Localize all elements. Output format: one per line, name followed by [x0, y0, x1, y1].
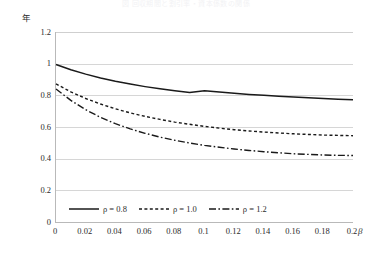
- x-axis-tick-labels: β 00.020.040.060.080.10.120.140.160.180.…: [0, 226, 372, 238]
- figure-container: 図 回収期間と割引率・資本係数の関係 年 00.20.40.60.811.2 ρ…: [0, 0, 372, 256]
- legend-swatch-solid: [69, 205, 99, 213]
- figure-title: 図 回収期間と割引率・資本係数の関係: [0, 0, 372, 9]
- series-line-2: [56, 84, 353, 136]
- y-tick-label: 0.6: [17, 123, 51, 132]
- y-tick-label: 0.8: [17, 91, 51, 100]
- y-axis-tick-labels: 00.20.40.60.811.2: [14, 0, 51, 256]
- plot-area: [55, 32, 353, 223]
- series-curves-layer: [56, 32, 353, 222]
- y-tick-label: 1.2: [17, 28, 51, 37]
- legend-item-1[interactable]: ρ = 0.8: [69, 205, 127, 214]
- y-tick-label: 0.2: [17, 186, 51, 195]
- legend-label: ρ = 1.0: [173, 205, 197, 214]
- legend-swatch-dash-dot: [209, 205, 239, 213]
- legend-item-2[interactable]: ρ = 1.0: [139, 205, 197, 214]
- legend-label: ρ = 1.2: [243, 205, 267, 214]
- legend-item-3[interactable]: ρ = 1.2: [209, 205, 267, 214]
- legend-label: ρ = 0.8: [103, 205, 127, 214]
- series-line-1: [56, 64, 353, 99]
- legend-swatch-dotted: [139, 205, 169, 213]
- y-tick-label: 0.4: [17, 154, 51, 163]
- x-tick-label: 0.2: [332, 226, 372, 237]
- chart-legend: ρ = 0.8ρ = 1.0ρ = 1.2: [69, 203, 267, 215]
- series-line-3: [56, 89, 353, 156]
- y-tick-label: 1: [17, 59, 51, 68]
